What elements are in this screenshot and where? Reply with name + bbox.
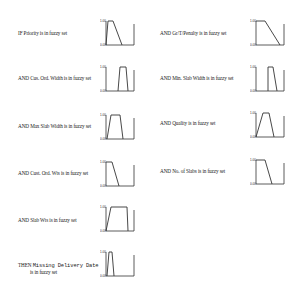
rule-prefix: THEN bbox=[18, 262, 33, 268]
membership-chart-missing-delivery-date: 1.000.00 bbox=[100, 248, 136, 280]
rule-label-min-slab-width: AND Min. Slab Width is in fuzzy set bbox=[160, 75, 233, 81]
axis-label-min: 0.00 bbox=[100, 184, 106, 188]
membership-chart-slab-wts: 1.000.00 bbox=[100, 203, 136, 235]
membership-function bbox=[107, 115, 123, 139]
axis-label-max: 1.00 bbox=[250, 158, 256, 162]
membership-chart-no-of-slabs: 1.000.00 bbox=[250, 156, 286, 188]
rule-label-quality: AND Quality is in fuzzy set bbox=[160, 120, 215, 126]
membership-chart-gr-t-penalty: 1.000.00 bbox=[250, 17, 286, 49]
axis-label-min: 0.00 bbox=[100, 89, 106, 93]
rule-label-gr-t-penalty: AND Gr/T/Penalty is in fuzzy set bbox=[160, 30, 226, 36]
rule-suffix: is in fuzzy set bbox=[18, 269, 98, 275]
rule-label-cus-ord-width: AND Cus. Ord. Width is in fuzzy set bbox=[18, 75, 91, 81]
axis-label-min: 0.00 bbox=[100, 137, 106, 141]
axis-label-max: 1.00 bbox=[100, 65, 106, 69]
membership-function bbox=[107, 252, 114, 276]
axis-label-min: 0.00 bbox=[250, 43, 256, 47]
membership-function bbox=[256, 21, 280, 45]
rule-label-missing-delivery-date: THEN Missing Delivery Dateis in fuzzy se… bbox=[18, 262, 98, 275]
membership-function bbox=[256, 160, 272, 184]
axis-label-max: 1.00 bbox=[250, 65, 256, 69]
axis-label-max: 1.00 bbox=[100, 19, 106, 23]
membership-chart-min-slab-width: 1.000.00 bbox=[250, 63, 286, 95]
axis-label-max: 1.00 bbox=[100, 160, 106, 164]
axis-label-min: 0.00 bbox=[250, 182, 256, 186]
rule-label-max-slab-width: AND Max Slab Width is in fuzzy set bbox=[18, 123, 91, 129]
rule-label-cust-ord-wts: AND Cust. Ord. Wts is in fuzzy set bbox=[18, 170, 88, 176]
membership-chart-cus-ord-width: 1.000.00 bbox=[100, 63, 136, 95]
membership-function bbox=[106, 162, 119, 186]
membership-function bbox=[268, 67, 277, 91]
membership-function bbox=[106, 21, 122, 45]
rule-label-no-of-slabs: AND No. of Slabs is in fuzzy set bbox=[160, 168, 225, 174]
axis-label-min: 0.00 bbox=[250, 135, 256, 139]
rule-label-priority: IF Priority is in fuzzy set bbox=[18, 30, 67, 36]
membership-function bbox=[118, 67, 128, 91]
axis-label-min: 0.00 bbox=[100, 229, 106, 233]
membership-chart-priority: 1.000.00 bbox=[100, 17, 136, 49]
axis-label-max: 1.00 bbox=[100, 113, 106, 117]
axis-label-max: 1.00 bbox=[250, 111, 256, 115]
membership-chart-cust-ord-wts: 1.000.00 bbox=[100, 158, 136, 190]
axis-label-min: 0.00 bbox=[250, 89, 256, 93]
axis-label-min: 0.00 bbox=[100, 274, 106, 278]
rule-label-slab-wts: AND Slab Wts is in fuzzy set bbox=[18, 217, 76, 223]
membership-chart-max-slab-width: 1.000.00 bbox=[100, 111, 136, 143]
axis-label-min: 0.00 bbox=[100, 43, 106, 47]
membership-chart-quality: 1.000.00 bbox=[250, 109, 286, 141]
axis-label-max: 1.00 bbox=[100, 205, 106, 209]
axis-label-max: 1.00 bbox=[100, 250, 106, 254]
axis-label-max: 1.00 bbox=[250, 19, 256, 23]
membership-function bbox=[256, 113, 274, 137]
membership-function bbox=[106, 207, 128, 231]
